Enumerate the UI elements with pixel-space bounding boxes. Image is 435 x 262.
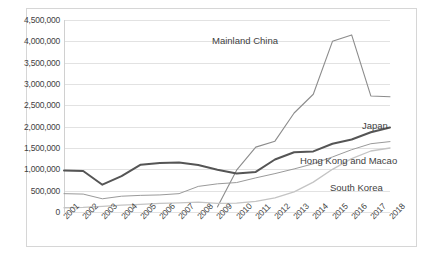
- y-axis-tick-label: 3,000,000: [24, 79, 60, 89]
- series-label-hong-kong-and-macao: Hong Kong and Macao: [300, 155, 397, 166]
- y-axis-tick-label: 500,000: [31, 186, 60, 196]
- series-label-mainland-china: Mainland China: [212, 35, 278, 46]
- series-label-south-korea: South Korea: [330, 182, 383, 193]
- x-axis-tick-labels: 2001200220032004200520062007200820092010…: [64, 214, 390, 254]
- series-label-japan: Japan: [362, 120, 388, 131]
- y-axis-tick-label: 4,000,000: [24, 36, 60, 46]
- y-axis-tick-label: 2,500,000: [24, 100, 60, 110]
- y-axis-tick-label: 0: [55, 207, 60, 217]
- y-axis-tick-label: 1,000,000: [24, 164, 60, 174]
- y-axis-tick-label: 1,500,000: [24, 143, 60, 153]
- y-axis-tick-label: 3,500,000: [24, 58, 60, 68]
- y-axis-tick-label: 4,500,000: [24, 15, 60, 25]
- y-axis-tick-labels: 4,500,0004,000,0003,500,0003,000,0002,50…: [0, 20, 60, 212]
- y-axis-tick-label: 2,000,000: [24, 122, 60, 132]
- line-chart: 4,500,0004,000,0003,500,0003,000,0002,50…: [0, 0, 435, 262]
